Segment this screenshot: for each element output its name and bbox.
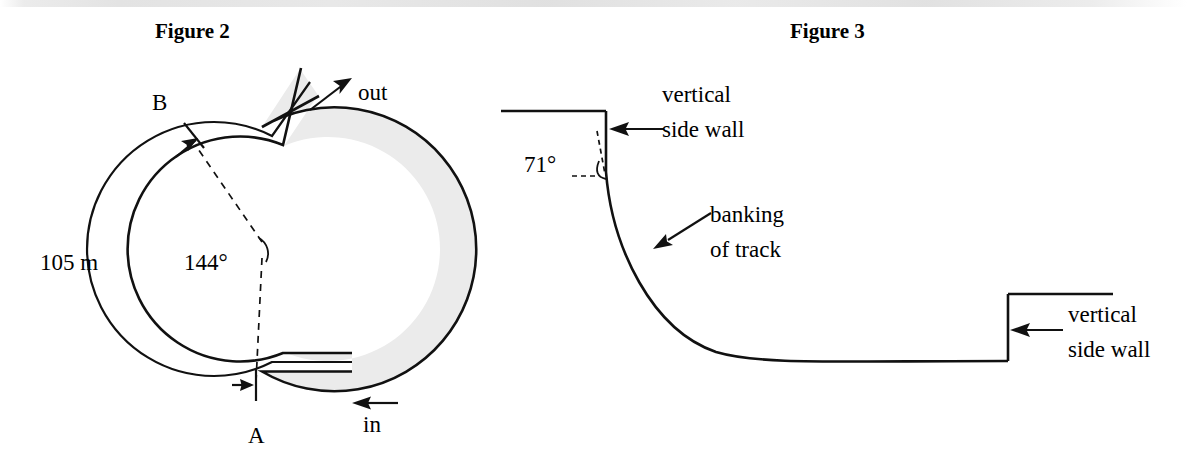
label-banking-line2: of track bbox=[710, 237, 781, 262]
label-top-wall-line1: vertical bbox=[662, 82, 731, 107]
label-angle-71: 71° bbox=[524, 152, 556, 177]
label-top-wall-line2: side wall bbox=[662, 117, 744, 142]
bottom-wall-arrow bbox=[1010, 323, 1063, 337]
figure-page: Figure 2 bbox=[0, 0, 1187, 457]
angle-71-construction bbox=[572, 131, 606, 179]
label-banking-line1: banking bbox=[710, 202, 785, 227]
figure-3-drawing: vertical side wall banking of track vert… bbox=[0, 0, 1187, 457]
label-bottom-wall-line2: side wall bbox=[1068, 337, 1150, 362]
banking-arrow bbox=[653, 213, 711, 249]
label-bottom-wall-line1: vertical bbox=[1068, 302, 1137, 327]
top-wall-arrow bbox=[609, 122, 664, 136]
track-cross-section bbox=[501, 111, 1113, 362]
